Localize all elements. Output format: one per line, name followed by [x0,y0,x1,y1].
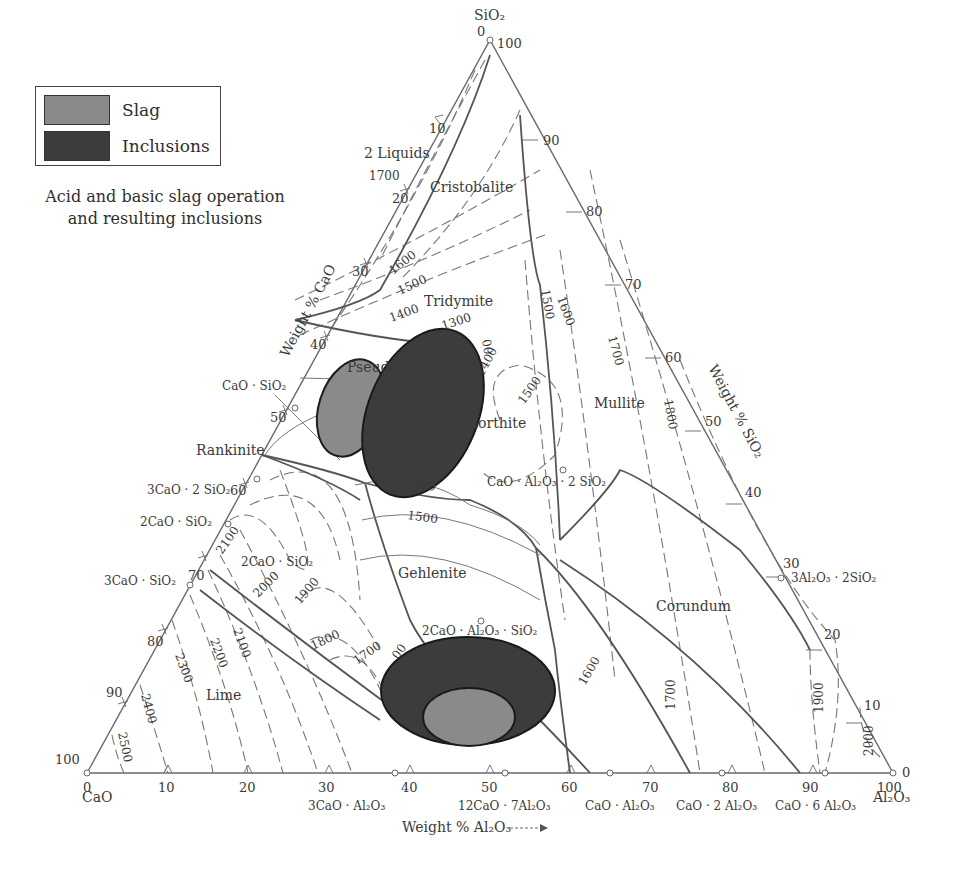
svg-text:3CaO · Al₂O₃: 3CaO · Al₂O₃ [308,799,385,813]
svg-text:1300: 1300 [440,310,473,333]
svg-text:0: 0 [477,24,485,39]
svg-text:50: 50 [481,780,498,795]
svg-text:CaO · 2 Al₂O₃: CaO · 2 Al₂O₃ [676,799,757,813]
svg-text:0: 0 [902,765,910,780]
svg-text:2CaO · Al₂O₃ · SiO₂: 2CaO · Al₂O₃ · SiO₂ [422,624,538,638]
svg-text:20: 20 [824,627,841,642]
svg-text:1600: 1600 [554,294,578,327]
svg-text:60: 60 [665,350,682,365]
svg-text:CaO · 6 Al₂O₃: CaO · 6 Al₂O₃ [775,799,856,813]
svg-text:30: 30 [352,264,369,279]
svg-text:2CaO · SiO₂: 2CaO · SiO₂ [140,515,212,529]
svg-text:CaO · SiO₂: CaO · SiO₂ [222,379,287,393]
al2o3-tick-labels: 0 10 20 30 40 50 60 70 80 90 100 [83,780,902,795]
svg-text:Corundum: Corundum [656,598,731,614]
svg-text:100: 100 [497,36,522,51]
svg-text:30: 30 [783,556,800,571]
svg-text:CaO · Al₂O₃: CaO · Al₂O₃ [585,799,655,813]
svg-text:1700: 1700 [605,334,626,367]
svg-text:2200: 2200 [207,636,231,669]
svg-text:1700: 1700 [351,638,384,667]
svg-text:50: 50 [705,414,722,429]
svg-text:1500: 1500 [538,288,557,321]
svg-text:2CaO · SiO₂: 2CaO · SiO₂ [241,555,313,569]
svg-text:2100: 2100 [213,524,242,557]
svg-text:80: 80 [147,634,164,649]
svg-text:50: 50 [270,410,287,425]
svg-text:70: 70 [188,568,205,583]
vertex-sio2: SiO₂ [474,7,505,23]
svg-text:10: 10 [864,698,881,713]
svg-text:100: 100 [55,752,80,767]
svg-text:100: 100 [877,780,902,795]
svg-text:1800: 1800 [308,627,342,653]
svg-text:2 Liquids: 2 Liquids [364,145,430,161]
svg-text:40: 40 [310,337,327,352]
svg-text:10: 10 [158,780,175,795]
svg-text:40: 40 [401,780,418,795]
sio2-tick-labels: 100 90 80 70 60 50 40 30 20 10 0 [497,36,910,780]
svg-text:1500: 1500 [515,374,544,407]
svg-text:40: 40 [745,485,762,500]
region-lower-slag [423,688,515,746]
svg-text:1800: 1800 [661,398,680,431]
svg-text:northite: northite [469,415,526,431]
svg-text:1700: 1700 [664,679,678,710]
svg-text:70: 70 [625,277,642,292]
svg-text:1400: 1400 [387,301,420,325]
svg-text:0: 0 [83,780,91,795]
svg-text:12CaO · 7Al₂O₃: 12CaO · 7Al₂O₃ [458,799,551,813]
svg-text:30: 30 [318,780,335,795]
svg-text:3Al₂O₃ · 2SiO₂: 3Al₂O₃ · 2SiO₂ [791,571,877,585]
svg-text:Rankinite: Rankinite [196,442,265,458]
svg-text:Pseudo: Pseudo [347,359,398,375]
svg-text:2400: 2400 [138,692,159,725]
al2o3-axis-label: Weight % Al₂O₃ [402,819,511,835]
svg-text:90: 90 [543,133,560,148]
svg-text:2300: 2300 [172,651,196,684]
svg-text:Tridymite: Tridymite [424,293,493,309]
svg-text:70: 70 [642,780,659,795]
svg-text:2000: 2000 [250,569,281,600]
svg-text:1900: 1900 [292,575,322,607]
svg-text:3CaO · 2 SiO₂: 3CaO · 2 SiO₂ [147,483,231,497]
svg-text:Cristobalite: Cristobalite [430,179,513,195]
svg-text:20: 20 [239,780,256,795]
svg-text:60: 60 [230,483,247,498]
sio2-axis-label: Weight % SiO₂ [705,362,767,460]
svg-text:1700: 1700 [369,169,400,183]
svg-text:2100: 2100 [230,626,254,659]
svg-text:1600: 1600 [575,654,602,687]
svg-text:CaO · Al₂O₃ · 2 SiO₂: CaO · Al₂O₃ · 2 SiO₂ [487,475,606,489]
svg-text:Mullite: Mullite [594,395,645,411]
svg-text:1400: 1400 [405,477,437,494]
svg-text:Lime: Lime [206,687,241,703]
svg-text:1500: 1500 [407,508,439,526]
svg-text:3CaO · SiO₂: 3CaO · SiO₂ [104,574,176,588]
sio2-axis-ticks [522,140,862,723]
svg-text:80: 80 [722,780,739,795]
svg-text:90: 90 [802,780,819,795]
svg-text:90: 90 [106,685,123,700]
svg-text:60: 60 [561,780,578,795]
arrow-head-icon [540,824,548,832]
svg-text:80: 80 [586,204,603,219]
svg-text:10: 10 [429,121,446,136]
ternary-diagram: SiO₂ CaO Al₂O₃ 0 10 20 30 40 50 60 70 80… [0,0,960,873]
svg-text:Gehlenite: Gehlenite [398,565,467,581]
svg-text:2000: 2000 [862,725,876,756]
svg-text:1900: 1900 [812,682,826,713]
svg-text:20: 20 [392,191,409,206]
